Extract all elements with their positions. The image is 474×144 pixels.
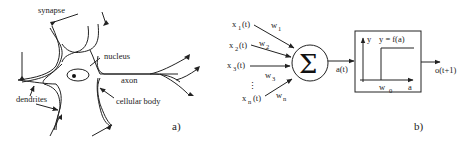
threshold-subscript: 0	[389, 87, 392, 94]
panel-a-caption: a)	[172, 120, 181, 133]
input-xn: x n (t) w n	[242, 90, 287, 105]
cellular-body-pointer	[100, 88, 114, 98]
input-x2: x 2 (t) w 2	[229, 38, 269, 52]
svg-text:x: x	[229, 40, 234, 50]
nucleus-dot	[72, 74, 76, 78]
y-axis-label: y	[367, 34, 372, 44]
axon-branch-upper	[176, 70, 196, 80]
a-axis-label: a	[408, 82, 412, 92]
threshold-label: w	[379, 82, 386, 92]
svg-text:x: x	[242, 93, 247, 103]
cellular-body-label: cellular body	[116, 96, 161, 106]
neuron-figure: synapse nucleus axon dendrites cellular …	[0, 0, 474, 144]
ellipsis: ⋮	[248, 81, 257, 91]
dendrite-upper-right	[62, 24, 98, 53]
panel-b-caption: b)	[414, 120, 424, 133]
svg-text:(t): (t)	[237, 60, 245, 70]
input-arrow-2	[251, 45, 291, 57]
incoming-fiber-bottom	[50, 116, 60, 136]
artificial-neuron-panel: x 1 (t) w 1 x 2 (t) w 2 x 3 (t) w 3 ⋮ x …	[227, 19, 456, 133]
input-x1: x 1 (t) w 1	[232, 19, 281, 32]
svg-text:x: x	[227, 60, 232, 70]
step-function-curve	[381, 48, 414, 80]
svg-text:2: 2	[235, 45, 238, 52]
svg-text:n: n	[283, 95, 287, 102]
svg-text:n: n	[248, 98, 252, 105]
cell-body-outline	[22, 26, 178, 130]
svg-text:3: 3	[233, 65, 236, 72]
dendrites-label: dendrites	[16, 94, 47, 104]
nucleus-ellipse	[67, 69, 89, 81]
synapse-terminal-icon	[103, 20, 109, 26]
synapse-label: synapse	[38, 5, 65, 15]
dendrites-pointer-lower	[36, 104, 58, 110]
axon-branch-lower	[160, 74, 190, 96]
nucleus-pointer	[90, 58, 100, 66]
svg-text:w: w	[276, 90, 283, 100]
svg-text:2: 2	[266, 43, 269, 50]
nucleus-label: nucleus	[104, 51, 130, 61]
svg-text:(t): (t)	[239, 40, 247, 50]
svg-text:(t): (t)	[253, 93, 261, 103]
input-x3: x 3 (t) w 3	[227, 60, 275, 82]
svg-text:1: 1	[278, 25, 281, 32]
sigma-icon: Σ	[299, 49, 317, 79]
svg-text:(t): (t)	[242, 19, 250, 29]
axon-branch-middle	[150, 74, 180, 82]
svg-text:1: 1	[238, 24, 241, 31]
biological-neuron-panel: synapse nucleus axon dendrites cellular …	[16, 5, 200, 136]
axon-label: axon	[121, 75, 138, 85]
output-label: o(t+1)	[435, 65, 456, 75]
synapse-pointer	[54, 14, 78, 22]
synapse-terminal-icon	[19, 76, 25, 80]
svg-text:w: w	[259, 38, 266, 48]
dendrite-lower-right	[97, 78, 110, 126]
function-formula: y = f(a)	[379, 34, 405, 44]
dendrite-lower-left	[54, 84, 61, 130]
svg-text:w: w	[271, 20, 278, 30]
activation-label: a(t)	[336, 64, 348, 74]
axon-terminal-icon	[188, 92, 194, 96]
svg-text:w: w	[265, 70, 272, 80]
svg-text:x: x	[232, 19, 237, 29]
svg-text:3: 3	[272, 75, 275, 82]
